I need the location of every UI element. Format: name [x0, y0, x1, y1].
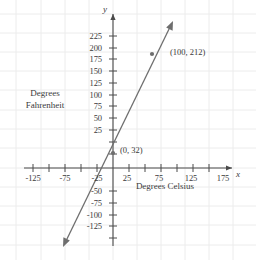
y-tick-label-neg125: -125 — [74, 222, 102, 231]
y-tick-label-100: 100 — [76, 91, 102, 100]
coordinate-plane-figure: 225 200 175 150 125 100 75 50 25 -50 -75… — [0, 0, 256, 260]
line-arrow-upper — [166, 21, 173, 31]
y-tick-label-50: 50 — [76, 114, 102, 123]
x-axis-title: Degrees Celsius — [120, 182, 210, 191]
data-point-0-32 — [111, 151, 115, 155]
line-arrow-lower — [63, 237, 70, 247]
y-tick-label-neg50: -50 — [76, 187, 102, 196]
y-axis-letter: y — [103, 5, 107, 14]
x-tick-label-neg25: -25 — [83, 174, 111, 183]
y-tick-label-225: 225 — [76, 32, 102, 41]
annotation-point-100-212: (100, 212) — [170, 48, 205, 57]
y-tick-label-125: 125 — [76, 79, 102, 88]
data-point-100-212 — [150, 52, 154, 56]
y-axis-title-line-2: Fahrenheit — [12, 99, 78, 111]
x-axis — [24, 165, 232, 170]
x-tick-label-neg75: -75 — [51, 174, 79, 183]
y-tick-label-200: 200 — [76, 44, 102, 53]
y-tick-label-175: 175 — [76, 55, 102, 64]
annotation-point-0-32: (0, 32) — [120, 146, 143, 155]
y-axis-title-line-1: Degrees — [12, 87, 78, 99]
plot-canvas — [0, 0, 256, 260]
y-axis-title: Degrees Fahrenheit — [12, 87, 78, 111]
y-tick-label-75: 75 — [76, 102, 102, 111]
x-tick-label-neg125: -125 — [19, 174, 47, 183]
y-tick-label-25: 25 — [76, 126, 102, 135]
x-tick-label-175: 175 — [211, 174, 235, 183]
y-tick-label-neg100: -100 — [74, 211, 102, 220]
y-tick-label-neg75: -75 — [76, 199, 102, 208]
background-grid — [0, 0, 256, 260]
y-tick-label-150: 150 — [76, 67, 102, 76]
x-axis-letter: x — [236, 170, 240, 179]
